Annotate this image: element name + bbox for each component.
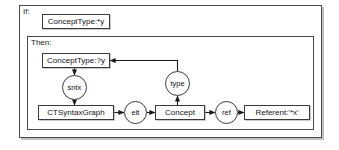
if-frame-label: If:: [23, 7, 30, 17]
node-type[interactable]: type: [165, 71, 190, 96]
node-ctsyntaxgraph[interactable]: CTSyntaxGraph: [38, 105, 114, 120]
node-concept[interactable]: Concept: [155, 105, 205, 120]
node-ref[interactable]: ref: [215, 101, 238, 124]
node-referent[interactable]: Referent:'*x': [244, 105, 310, 120]
diagram-canvas: If: Then: ConceptType:*y ConceptType:?y …: [0, 0, 339, 150]
node-elt[interactable]: elt: [124, 101, 147, 124]
then-frame-label: Then:: [31, 38, 51, 48]
node-sntx[interactable]: sntx: [62, 75, 87, 100]
node-then-concepttype[interactable]: ConceptType:?y: [42, 53, 110, 68]
node-if-concepttype[interactable]: ConceptType:*y: [42, 14, 110, 29]
